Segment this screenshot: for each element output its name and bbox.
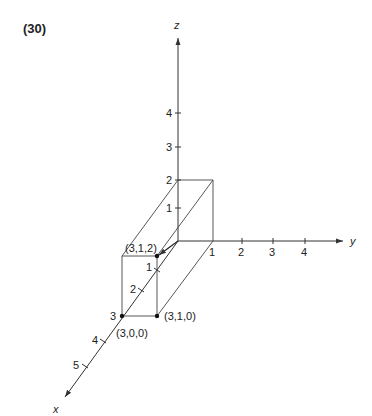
- z-tick-1: 1: [166, 202, 172, 214]
- problem-number: (30): [23, 21, 46, 36]
- z-axis-label: z: [173, 19, 180, 31]
- y-axis-label: y: [349, 235, 357, 247]
- x-tick-2: 2: [130, 283, 136, 295]
- point-3-1-2: [155, 254, 159, 258]
- x-tick-1: 1: [146, 261, 152, 273]
- z-tick-4: 4: [166, 107, 172, 119]
- y-tick-4: 4: [301, 246, 307, 258]
- position-vector-arrow: [159, 241, 178, 255]
- x-tick-4: 4: [92, 334, 98, 346]
- y-tick-3: 3: [269, 246, 275, 258]
- z-axis: z 1 2 3 4: [166, 19, 181, 241]
- label-3-1-0: (3,1,0): [164, 310, 196, 322]
- x-tick-3: 3: [110, 310, 116, 322]
- x-axis: x 1 2 3 4 5: [52, 241, 178, 415]
- y-axis: y 1 2 3 4: [178, 235, 357, 258]
- x-tick-5: 5: [73, 359, 79, 371]
- z-tick-3: 3: [166, 141, 172, 153]
- point-3-1-0: [155, 314, 159, 318]
- z-tick-2: 2: [166, 174, 172, 186]
- y-tick-2: 2: [238, 246, 244, 258]
- label-3-1-2: (3,1,2): [125, 242, 157, 254]
- y-tick-1: 1: [209, 246, 215, 258]
- 3d-coordinate-diagram: (30) z 1 2 3 4 y 1 2 3 4 x 1 2 3 4 5: [0, 0, 372, 416]
- point-3-0-0: [120, 314, 124, 318]
- label-3-0-0: (3,0,0): [116, 327, 148, 339]
- x-axis-label: x: [52, 403, 59, 415]
